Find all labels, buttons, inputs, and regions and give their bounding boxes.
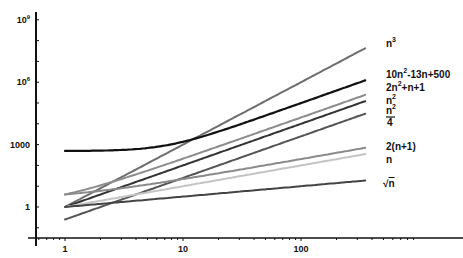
svg-text:n2: n2 [386,103,396,116]
label-n-squared-over-4: n2 4 [386,103,396,128]
x-tick-label: 100 [293,244,308,254]
y-tick-label: 1 [25,202,30,212]
series-line [65,181,365,208]
label-2n-plus-1: 2(n+1) [386,141,416,152]
y-tick-label: 106 [17,76,31,87]
label-n: n [386,154,392,165]
label-n-cubed: n3 [386,36,396,49]
series-line [65,101,365,207]
label-sqrt-n: √n [383,178,395,189]
svg-text:4: 4 [387,117,393,128]
series-line [65,80,365,150]
label-2n2-n-1: 2n2+n+1 [386,80,425,93]
complexity-growth-chart: 11010011000106109 n3 10n2-13n+500 2n2+n+… [0,0,463,258]
label-10n2-13n-500: 10n2-13n+500 [386,67,451,80]
series-labels: n3 10n2-13n+500 2n2+n+1 n2 n2 4 2(n+1) n… [383,36,451,189]
y-tick-label: 1000 [10,140,30,150]
x-tick-label: 1 [62,244,67,254]
y-tick-label: 109 [17,14,31,25]
series-lines [65,48,365,219]
x-tick-label: 10 [178,244,188,254]
series-line [65,154,365,207]
